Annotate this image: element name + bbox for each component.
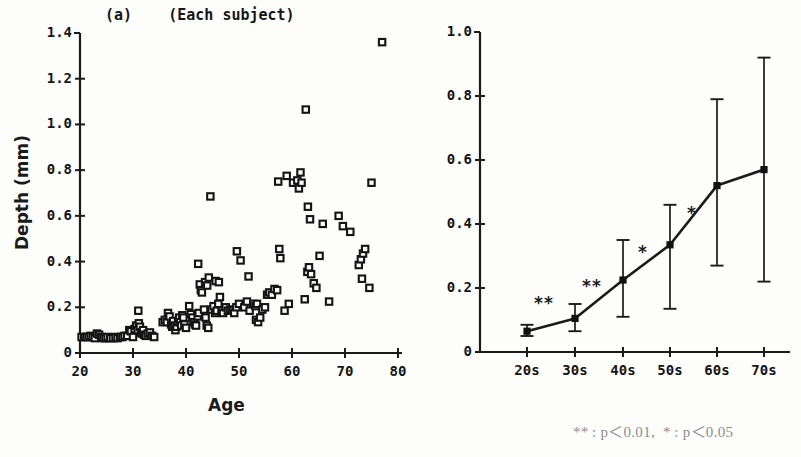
significance-footnote: ** : p＜0.01, * : p＜0.05 (573, 420, 733, 441)
scatter-point (237, 257, 243, 263)
scatter-point (326, 298, 332, 304)
data-point-marker (760, 166, 767, 173)
panel-b-x-tick-label: 30s (555, 362, 595, 378)
scatter-point (193, 322, 199, 328)
panel-a-x-tick-label: 70 (325, 363, 365, 379)
panel-a-x-tick-label: 60 (272, 363, 312, 379)
scatter-point (234, 248, 240, 254)
scatter-point (262, 304, 268, 310)
panel-b-y-tick-label: 0 (424, 343, 472, 359)
panel-a-y-tick-label: 1.0 (24, 115, 72, 131)
data-point-marker (523, 328, 530, 335)
scatter-point (297, 169, 303, 175)
scatter-point (245, 273, 251, 279)
scatter-point (205, 325, 211, 331)
scatter-point (305, 204, 311, 210)
panel-a-scatter-group (78, 39, 385, 341)
scatter-point (130, 334, 136, 340)
scatter-point (284, 173, 290, 179)
scatter-point (362, 246, 368, 252)
scatter-point (366, 285, 372, 291)
scatter-point (286, 301, 292, 307)
significance-marker: ** (534, 293, 554, 313)
scatter-point (379, 39, 385, 45)
scatter-point (274, 287, 280, 293)
scatter-point (347, 229, 353, 235)
panel-b-x-tick-label: 20s (507, 362, 547, 378)
scatter-point (135, 308, 141, 314)
panel-b-y-tick-label: 1.0 (424, 23, 472, 39)
panel-a-y-tick-label: 0.4 (24, 253, 72, 269)
scatter-point (180, 314, 186, 320)
panel-a-x-tick-label: 40 (166, 363, 206, 379)
scatter-point (183, 325, 189, 331)
scatter-point (257, 314, 263, 320)
scatter-point (313, 285, 319, 291)
scatter-point (206, 274, 212, 280)
scatter-point (277, 255, 283, 261)
scatter-point (316, 253, 322, 259)
scatter-point (275, 178, 281, 184)
panel-b-x-tick-label: 60s (697, 362, 737, 378)
significance-marker: * (638, 242, 648, 262)
scatter-point (303, 106, 309, 112)
panel-b-x-tick-label: 40s (603, 362, 643, 378)
panel-a-x-tick-label: 20 (60, 363, 100, 379)
scatter-point (308, 271, 314, 277)
scatter-point (217, 294, 223, 300)
data-point-marker (619, 276, 626, 283)
panel-a-y-tick-label: 1.2 (24, 70, 72, 86)
scatter-point (202, 314, 208, 320)
scatter-point (281, 308, 287, 314)
scatter-point (340, 223, 346, 229)
scatter-point (335, 213, 341, 219)
scatter-point (307, 216, 313, 222)
figure-container: (a) (Each subject) Depth (mm) Age (b) (E… (0, 0, 801, 457)
scatter-point (302, 296, 308, 302)
panel-a-y-tick-label: 1.4 (24, 24, 72, 40)
panel-b-x-tick-label: 70s (744, 362, 784, 378)
significance-marker: ** (582, 276, 602, 296)
scatter-point (151, 334, 157, 340)
scatter-point (215, 301, 221, 307)
panel-a-x-tick-label: 80 (378, 363, 418, 379)
data-point-marker (666, 241, 673, 248)
significance-marker: * (687, 203, 697, 223)
panel-a-x-tick-label: 50 (219, 363, 259, 379)
scatter-point (199, 289, 205, 295)
scatter-point (207, 193, 213, 199)
scatter-point (306, 264, 312, 270)
panel-b-x-tick-label: 50s (650, 362, 690, 378)
scatter-point (186, 303, 192, 309)
plot-drawing-surface: ****** (0, 0, 801, 457)
panel-b-y-tick-label: 0.4 (424, 215, 472, 231)
scatter-point (359, 276, 365, 282)
panel-a-y-tick-label: 0 (24, 344, 72, 360)
scatter-point (201, 306, 207, 312)
panel-a-y-tick-label: 0.6 (24, 207, 72, 223)
scatter-point (195, 261, 201, 267)
panel-a-y-tick-label: 0.8 (24, 161, 72, 177)
panel-a-x-tick-label: 30 (113, 363, 153, 379)
scatter-point (276, 246, 282, 252)
panel-b-y-tick-label: 0.6 (424, 151, 472, 167)
scatter-point (320, 221, 326, 227)
data-point-marker (571, 315, 578, 322)
panel-b-y-tick-label: 0.2 (424, 279, 472, 295)
scatter-point (368, 180, 374, 186)
data-point-marker (713, 182, 720, 189)
panel-a-y-tick-label: 0.2 (24, 298, 72, 314)
panel-b-y-tick-label: 0.8 (424, 87, 472, 103)
scatter-point (204, 282, 210, 288)
scatter-point (216, 279, 222, 285)
scatter-point (298, 180, 304, 186)
